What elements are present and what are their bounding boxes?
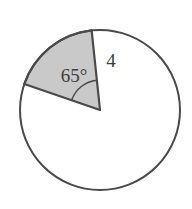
radius-length-label: 4 <box>106 50 116 71</box>
central-angle-label: 65° <box>61 65 88 86</box>
figure-container: 65° 4 <box>0 0 192 209</box>
circle-sector-diagram: 65° 4 <box>0 0 192 209</box>
